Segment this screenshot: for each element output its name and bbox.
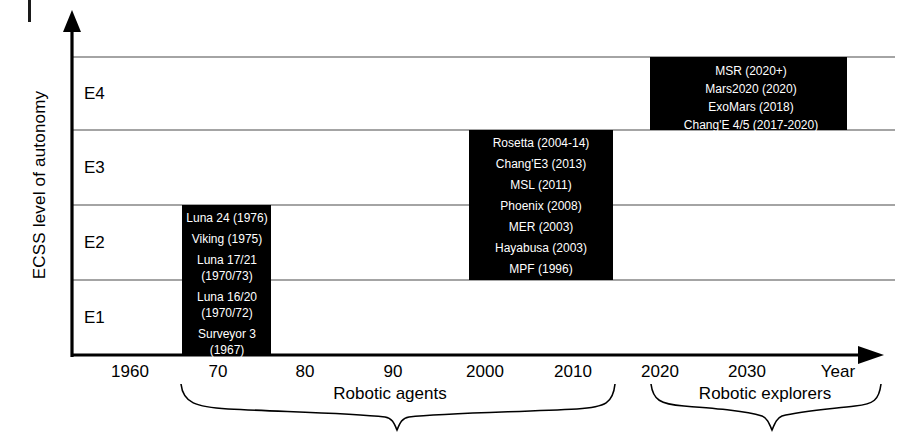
mission-entry-luna24: Luna 24 (1976) (186, 208, 267, 229)
x-axis-arrowhead (858, 346, 884, 364)
mission-entry-hayabusa: Hayabusa (2003) (495, 238, 587, 259)
mission-entry-mpf: MPF (1996) (509, 259, 572, 280)
x-tick-80: 80 (296, 362, 315, 382)
y-axis-arrowhead (63, 10, 81, 32)
mission-entry-phoenix: Phoenix (2008) (500, 196, 581, 217)
mission-entry-viking: Viking (1975) (192, 229, 263, 250)
x-tick-2000: 2000 (466, 362, 504, 382)
x-tick-2020: 2020 (641, 362, 679, 382)
x-axis-title: Year (821, 362, 855, 382)
mission-entry-surveyor3-year: (1967) (210, 340, 245, 361)
y-level-label-e2: E2 (84, 233, 105, 253)
x-tick-2010: 2010 (554, 362, 592, 382)
x-tick-2030: 2030 (728, 362, 766, 382)
mission-entry-luna1721-year: (1970/73) (201, 266, 252, 287)
autonomy-timeline-figure: ECSS level of autonomy (0, 0, 907, 446)
mission-entry-mer: MER (2003) (509, 217, 574, 238)
x-tick-1960: 1960 (111, 362, 149, 382)
x-tick-70: 70 (209, 362, 228, 382)
mission-entry-luna1620-year: (1970/72) (201, 303, 252, 324)
mission-entry-msl: MSL (2011) (510, 175, 571, 196)
y-level-label-e3: E3 (84, 158, 105, 178)
mission-entry-change45: Chang'E 4/5 (2017-2020) (684, 115, 818, 136)
annotation-robotic-agents: Robotic agents (333, 384, 446, 404)
y-level-label-e4: E4 (84, 84, 105, 104)
annotation-robotic-explorers: Robotic explorers (699, 384, 831, 404)
mission-entry-rosetta: Rosetta (2004-14) (493, 133, 590, 154)
y-level-label-e1: E1 (84, 308, 105, 328)
x-tick-90: 90 (384, 362, 403, 382)
mission-entry-change3: Chang'E3 (2013) (496, 154, 586, 175)
